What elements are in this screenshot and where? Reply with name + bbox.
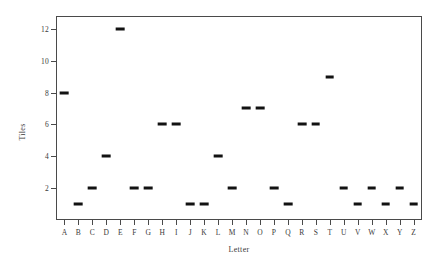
data-point-a xyxy=(60,91,69,94)
data-point-b xyxy=(74,203,83,206)
x-tick-label-o: O xyxy=(257,228,262,237)
x-tick-mark xyxy=(92,220,93,225)
x-tick-mark xyxy=(232,220,233,225)
x-tick-mark xyxy=(190,220,191,225)
x-tick-mark xyxy=(414,220,415,225)
x-tick-label-p: P xyxy=(272,228,276,237)
y-axis: Tiles 24681012 xyxy=(0,0,56,263)
x-tick-label-t: T xyxy=(328,228,333,237)
y-tick-mark xyxy=(51,93,56,94)
data-point-j xyxy=(186,203,195,206)
x-tick-label-m: M xyxy=(229,228,236,237)
x-tick-label-l: L xyxy=(216,228,221,237)
data-point-y xyxy=(395,187,404,190)
data-point-e xyxy=(116,27,125,30)
y-tick-mark xyxy=(51,124,56,125)
data-point-h xyxy=(158,123,167,126)
y-tick-label: 8 xyxy=(45,88,49,97)
data-point-r xyxy=(298,123,307,126)
y-tick-label: 2 xyxy=(45,184,49,193)
x-tick-label-f: F xyxy=(132,228,136,237)
x-tick-mark xyxy=(358,220,359,225)
x-tick-label-n: N xyxy=(243,228,248,237)
data-point-v xyxy=(353,203,362,206)
x-tick-label-v: V xyxy=(355,228,360,237)
data-point-c xyxy=(88,187,97,190)
x-tick-mark xyxy=(176,220,177,225)
data-point-k xyxy=(200,203,209,206)
x-tick-label-e: E xyxy=(118,228,123,237)
x-tick-label-z: Z xyxy=(411,228,416,237)
x-tick-label-r: R xyxy=(299,228,304,237)
x-tick-label-x: X xyxy=(383,228,388,237)
data-point-x xyxy=(381,203,390,206)
data-point-z xyxy=(409,203,418,206)
x-tick-label-w: W xyxy=(368,228,375,237)
x-tick-mark xyxy=(386,220,387,225)
x-tick-mark xyxy=(148,220,149,225)
x-tick-mark xyxy=(316,220,317,225)
y-tick-label: 4 xyxy=(45,152,49,161)
x-tick-mark xyxy=(106,220,107,225)
data-point-s xyxy=(312,123,321,126)
data-point-w xyxy=(367,187,376,190)
y-tick-mark xyxy=(51,188,56,189)
y-tick-label: 10 xyxy=(41,56,49,65)
data-point-i xyxy=(172,123,181,126)
x-tick-label-s: S xyxy=(314,228,318,237)
x-tick-mark xyxy=(162,220,163,225)
x-tick-label-g: G xyxy=(145,228,150,237)
chart-screenshot: Tiles 24681012 Letter ABCDEFGHIJKLMNOPQR… xyxy=(0,0,437,263)
x-tick-label-h: H xyxy=(159,228,164,237)
x-tick-label-i: I xyxy=(175,228,178,237)
x-tick-label-j: J xyxy=(189,228,192,237)
x-tick-mark xyxy=(372,220,373,225)
x-tick-mark xyxy=(330,220,331,225)
x-tick-label-k: K xyxy=(201,228,206,237)
y-tick-mark xyxy=(51,29,56,30)
data-point-g xyxy=(144,187,153,190)
data-point-p xyxy=(270,187,279,190)
x-tick-label-q: Q xyxy=(285,228,290,237)
x-tick-mark xyxy=(134,220,135,225)
x-tick-mark xyxy=(204,220,205,225)
data-point-d xyxy=(102,155,111,158)
data-point-u xyxy=(339,187,348,190)
x-tick-mark xyxy=(344,220,345,225)
data-point-q xyxy=(284,203,293,206)
x-tick-mark xyxy=(64,220,65,225)
y-tick-label: 12 xyxy=(41,24,49,33)
data-point-l xyxy=(214,155,223,158)
x-tick-mark xyxy=(246,220,247,225)
x-tick-mark xyxy=(274,220,275,225)
x-tick-label-y: Y xyxy=(397,228,402,237)
y-tick-label: 6 xyxy=(45,120,49,129)
x-tick-mark xyxy=(78,220,79,225)
x-tick-mark xyxy=(120,220,121,225)
y-tick-mark xyxy=(51,156,56,157)
y-axis-title: Tiles xyxy=(18,123,27,140)
x-tick-label-a: A xyxy=(62,228,67,237)
x-tick-mark xyxy=(302,220,303,225)
x-tick-mark xyxy=(400,220,401,225)
x-tick-mark xyxy=(288,220,289,225)
x-axis: Letter ABCDEFGHIJKLMNOPQRSTUVWXYZ xyxy=(56,220,422,263)
data-point-o xyxy=(256,107,265,110)
x-axis-title: Letter xyxy=(229,245,250,254)
x-tick-mark xyxy=(218,220,219,225)
data-point-m xyxy=(228,187,237,190)
data-point-n xyxy=(242,107,251,110)
x-tick-label-c: C xyxy=(90,228,95,237)
x-tick-mark xyxy=(260,220,261,225)
y-tick-mark xyxy=(51,61,56,62)
data-point-t xyxy=(325,75,334,78)
data-point-f xyxy=(130,187,139,190)
x-tick-label-b: B xyxy=(76,228,81,237)
x-tick-label-d: D xyxy=(104,228,109,237)
x-tick-label-u: U xyxy=(341,228,346,237)
